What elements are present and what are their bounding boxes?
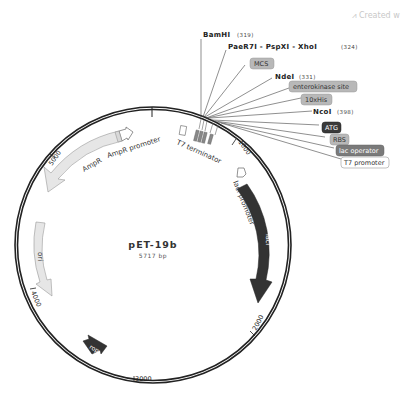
plasmid-name: pET-19b — [128, 239, 177, 250]
box-mcs[interactable]: MCS — [250, 58, 274, 69]
site-paer7i-pspxi-xhoi[interactable]: PaeR7I - PspXI - XhoI (324) — [228, 43, 358, 51]
svg-text:NdeI: NdeI — [275, 73, 294, 81]
tick-3000: 3000 — [134, 375, 152, 383]
plasmid-size: 5717 bp — [139, 252, 167, 260]
plasmid-map: 1000 2000 3000 4000 5000 AmpR AmpR promo… — [0, 0, 413, 403]
site-ndei[interactable]: NdeI (331) — [275, 73, 316, 81]
box-enterokinase-site[interactable]: enterokinase site — [289, 81, 357, 92]
svg-text:10xHis: 10xHis — [305, 96, 328, 104]
svg-text:PaeR7I - PspXI - XhoI: PaeR7I - PspXI - XhoI — [228, 43, 317, 51]
tick-1000: 1000 — [232, 138, 253, 156]
svg-text:1000: 1000 — [236, 138, 252, 156]
t7-terminator-feature[interactable]: T7 terminator — [174, 126, 222, 166]
svg-text:(331): (331) — [299, 74, 316, 80]
site-bamhi[interactable]: BamHI (319) — [203, 31, 254, 39]
svg-text:T7 promoter: T7 promoter — [343, 159, 385, 167]
svg-text:NcoI: NcoI — [313, 108, 332, 116]
svg-text:MCS: MCS — [254, 60, 268, 68]
svg-text:T7 terminator: T7 terminator — [174, 138, 222, 165]
svg-text:enterokinase site: enterokinase site — [293, 83, 349, 91]
box-rbs[interactable]: RBS — [330, 134, 349, 145]
svg-text:RBS: RBS — [333, 136, 346, 144]
box-atg[interactable]: ATG — [322, 122, 341, 133]
svg-text:(319): (319) — [237, 32, 254, 38]
ori-feature[interactable]: ori — [34, 222, 52, 296]
svg-text:lac operator: lac operator — [339, 147, 379, 155]
svg-text:(398): (398) — [337, 109, 354, 115]
box-t7-promoter[interactable]: T7 promoter — [341, 157, 389, 168]
svg-text:AmpR: AmpR — [81, 156, 103, 173]
rop-feature[interactable]: rop — [83, 335, 107, 355]
svg-text:lacI: lacI — [264, 234, 272, 245]
svg-text:ATG: ATG — [325, 124, 338, 132]
site-ncoi[interactable]: NcoI (398) — [313, 108, 354, 116]
svg-text:(324): (324) — [341, 44, 358, 50]
svg-text:3000: 3000 — [135, 375, 152, 383]
box-lac-operator[interactable]: lac operator — [336, 145, 384, 156]
svg-text:BamHI: BamHI — [203, 31, 230, 39]
svg-text:ori: ori — [36, 252, 44, 261]
box-10xhis[interactable]: 10xHis — [301, 94, 332, 105]
